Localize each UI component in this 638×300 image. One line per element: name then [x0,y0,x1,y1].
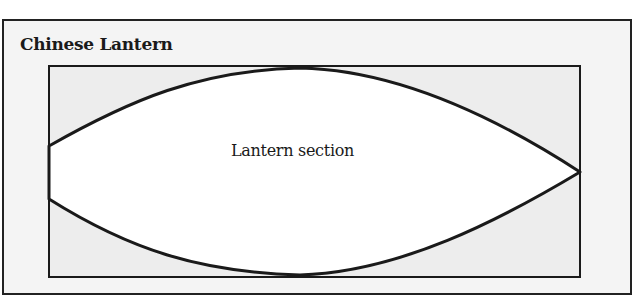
lantern-section-label: Lantern section [231,141,354,160]
